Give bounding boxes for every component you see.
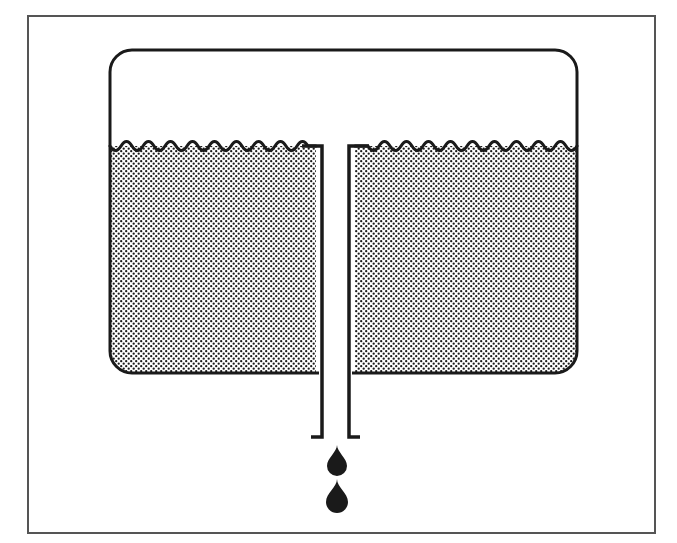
figure-root: Leaking container with drain tube Line-a… <box>0 0 677 543</box>
tube-bore <box>319 146 352 439</box>
drop-upper-icon <box>327 445 347 476</box>
drop-lower-icon <box>326 479 348 513</box>
figure-canvas <box>0 0 677 543</box>
